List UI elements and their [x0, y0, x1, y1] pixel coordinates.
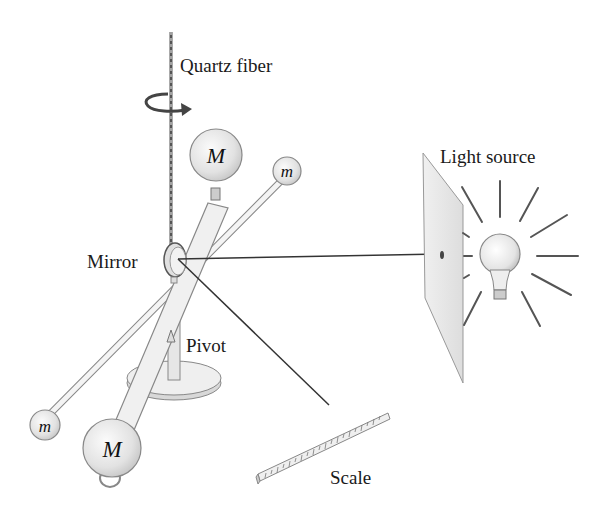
large-mass-bottom-label: M — [102, 438, 121, 461]
cavendish-diagram: Quartz fiber Mirror Pivot Scale Light so… — [0, 0, 610, 518]
incident-beam — [178, 254, 440, 259]
small-mass-top-label: m — [281, 163, 293, 180]
mirror-label: Mirror — [87, 252, 138, 271]
large-mass-top-label: M — [207, 145, 225, 167]
quartz-fiber-label: Quartz fiber — [180, 56, 272, 75]
rotation-arrow-icon — [146, 94, 192, 116]
scale-label: Scale — [330, 468, 371, 487]
screen-panel — [423, 153, 463, 383]
small-mass-bottom-label: m — [39, 418, 51, 435]
light-source-label: Light source — [440, 147, 536, 166]
pivot-label: Pivot — [186, 336, 226, 355]
light-bulb-icon — [462, 181, 578, 326]
